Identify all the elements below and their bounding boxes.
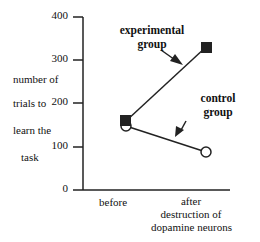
ytick-100: 100 [38, 139, 68, 151]
ylabel-line-3: learn the [13, 124, 51, 137]
xtick-before: before [99, 196, 127, 209]
legend-control: control group [188, 91, 248, 119]
ytick-0: 0 [38, 182, 68, 194]
ytick-400: 400 [38, 9, 68, 21]
ylabel-line-4: task [21, 151, 39, 164]
experimental-marker-after [201, 42, 212, 53]
control-line [126, 126, 206, 152]
control-marker-after [201, 147, 211, 157]
ylabel-line-2: trials to [13, 97, 46, 110]
legend-experimental: experimental group [112, 23, 192, 51]
experimental-marker-before [120, 115, 131, 126]
ylabel-line-1: number of [13, 73, 59, 86]
xtick-after: after destruction of dopamine neurons [151, 195, 231, 234]
ytick-300: 300 [38, 52, 68, 64]
